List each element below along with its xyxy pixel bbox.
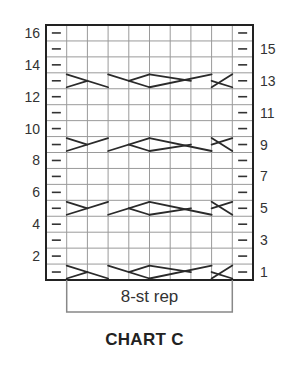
knitting-chart: 161412108642 15131197531 8-st rep — [0, 0, 289, 371]
row-number-15: 15 — [260, 41, 276, 57]
row-number-8: 8 — [32, 152, 40, 168]
row-number-5: 5 — [260, 200, 268, 216]
grid-lines — [46, 25, 253, 280]
cable-stroke — [67, 272, 88, 278]
right-row-numbers: 15131197531 — [260, 41, 276, 280]
cable-stroke — [67, 81, 88, 87]
row-number-16: 16 — [24, 25, 40, 41]
row-number-3: 3 — [260, 232, 268, 248]
cable-stroke — [129, 74, 150, 80]
cable-stroke — [212, 138, 233, 151]
row-number-9: 9 — [260, 137, 268, 153]
row-number-1: 1 — [260, 264, 268, 280]
cable-stroke — [129, 208, 150, 214]
repeat-bracket: 8-st rep — [67, 280, 233, 312]
row-number-10: 10 — [24, 121, 40, 137]
cable-stroke — [67, 202, 88, 208]
cable-stroke — [129, 266, 150, 272]
row-number-4: 4 — [32, 216, 40, 232]
cable-stroke — [212, 266, 233, 279]
chart-title: CHART C — [0, 330, 289, 350]
cable-stroke — [67, 138, 88, 144]
row-number-14: 14 — [24, 57, 40, 73]
row-number-2: 2 — [32, 248, 40, 264]
cable-stroke — [129, 145, 150, 151]
row-number-13: 13 — [260, 73, 276, 89]
row-number-11: 11 — [260, 105, 275, 121]
cable-stroke — [212, 74, 233, 87]
row-number-7: 7 — [260, 168, 268, 184]
repeat-label: 8-st rep — [121, 287, 179, 306]
cable-stroke — [212, 202, 233, 215]
left-row-numbers: 161412108642 — [24, 25, 40, 264]
row-number-12: 12 — [24, 89, 40, 105]
row-number-6: 6 — [32, 184, 40, 200]
